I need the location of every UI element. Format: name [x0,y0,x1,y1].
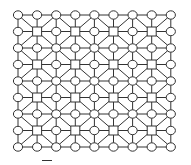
circle-node [13,143,22,151]
circle-node [13,60,22,68]
circle-node [13,93,22,101]
circle-node [33,44,42,52]
circle-node [33,110,42,118]
circle-node [109,44,118,52]
square-node [71,27,80,36]
circle-node [128,77,137,85]
circle-node [13,110,22,118]
caption-fragment [42,160,52,161]
circle-node [128,44,137,52]
circle-node [90,126,99,134]
circle-node [147,11,156,19]
circle-node [128,126,137,134]
circle-node [128,93,137,101]
circle-node [166,44,175,52]
square-node [33,27,42,36]
circle-node [33,143,42,151]
circle-node [13,27,22,35]
circle-node [71,77,80,85]
square-node [147,126,156,135]
circle-node [33,11,42,19]
square-node [109,93,118,102]
square-node [71,60,80,69]
circle-node [71,44,80,52]
circle-node [13,44,22,52]
square-node [71,93,80,102]
square-node [109,27,118,36]
circle-node [166,93,175,101]
circle-node [13,11,22,19]
circle-node [166,27,175,35]
square-node [33,60,42,69]
square-node [33,93,42,102]
circle-node [109,77,118,85]
circle-node [90,77,99,85]
circle-node [128,60,137,68]
circle-node [90,110,99,118]
circle-node [166,60,175,68]
circle-node [90,27,99,35]
circle-node [52,93,61,101]
square-node [71,126,80,135]
circle-node [109,110,118,118]
circle-node [147,110,156,118]
circle-node [128,27,137,35]
circle-node [52,110,61,118]
circle-node [52,11,61,19]
circle-node [166,77,175,85]
circle-node [52,60,61,68]
circle-node [71,11,80,19]
circle-node [52,44,61,52]
circle-node [128,11,137,19]
circle-node [147,143,156,151]
circle-node [109,143,118,151]
circle-node [90,93,99,101]
circle-node [166,110,175,118]
circle-node [52,126,61,134]
circle-node [13,77,22,85]
square-node [109,60,118,69]
circle-node [166,126,175,134]
circle-node [33,77,42,85]
circle-node [109,11,118,19]
square-node [147,27,156,36]
circle-node [71,110,80,118]
circle-node [166,11,175,19]
circle-node [128,143,137,151]
square-node [147,93,156,102]
circle-node [90,143,99,151]
circle-node [52,27,61,35]
graph-nodes [13,11,175,151]
circle-node [166,143,175,151]
circle-node [90,44,99,52]
circle-node [128,110,137,118]
circle-node [147,77,156,85]
square-node [109,126,118,135]
circle-node [147,44,156,52]
circle-node [52,143,61,151]
circle-node [13,126,22,134]
square-node [147,60,156,69]
circle-node [90,60,99,68]
circle-node [52,77,61,85]
circle-node [90,11,99,19]
square-node [33,126,42,135]
grid-graph-diagram [0,0,191,165]
circle-node [71,143,80,151]
